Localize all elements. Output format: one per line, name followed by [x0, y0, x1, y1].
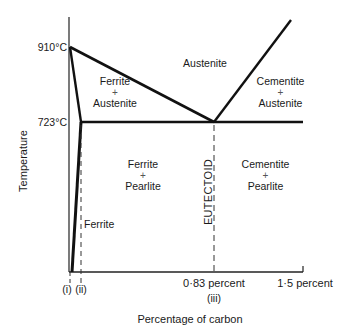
region-label-line1: Cementite	[243, 76, 318, 87]
region-label-line2: Pearlite	[108, 181, 178, 192]
tick-iii: (iii)	[200, 292, 228, 304]
eutectoid-label: EUTECTOID	[202, 152, 214, 232]
ferrite-solubility-line	[72, 122, 81, 272]
region-label-line2: Pearlite	[228, 181, 303, 192]
tick-1-5: 1·5 percent	[270, 277, 340, 289]
region-ferrite-austenite: Ferrite + Austenite	[80, 76, 150, 109]
region-label-line1: Ferrite	[108, 159, 178, 170]
x-axis-title: Percentage of carbon	[130, 313, 250, 325]
region-ferrite: Ferrite	[84, 219, 124, 230]
region-ferrite-pearlite: Ferrite + Pearlite	[108, 159, 178, 192]
region-label-line2: Austenite	[243, 98, 318, 109]
y-axis-title: Temperature	[17, 126, 29, 196]
tick-0-83: 0·83 percent	[174, 277, 254, 289]
region-cementite-pearlite: Cementite + Pearlite	[228, 159, 303, 192]
tick-ii: (ii)	[73, 283, 89, 295]
region-austenite: Austenite	[170, 58, 240, 69]
region-label-line1: Cementite	[228, 159, 303, 170]
region-label-line2: Austenite	[80, 98, 150, 109]
tick-i: (i)	[60, 283, 74, 295]
tick-910: 910°C	[17, 41, 67, 53]
region-cementite-austenite: Cementite + Austenite	[243, 76, 318, 109]
region-label-line1: Ferrite	[80, 76, 150, 87]
